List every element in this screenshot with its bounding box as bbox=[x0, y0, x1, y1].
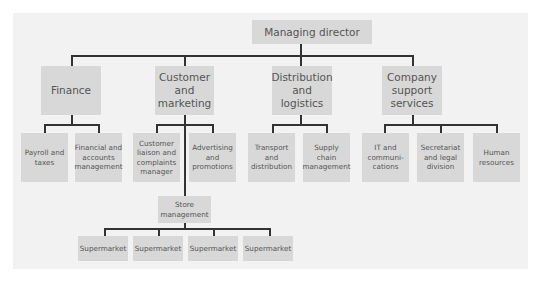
node-label: Financial and accounts management bbox=[74, 143, 122, 172]
node-managing-director: Managing director bbox=[252, 20, 372, 44]
connector bbox=[156, 124, 158, 133]
node-label: Secretariat and legal division bbox=[421, 143, 461, 172]
connector bbox=[440, 124, 442, 133]
node-label: Transport and distribution bbox=[251, 143, 292, 172]
node-customer-liaison: Customer liaison and complaints manager bbox=[133, 133, 180, 182]
connector bbox=[71, 55, 414, 57]
connector bbox=[212, 124, 214, 133]
connector bbox=[98, 124, 100, 133]
connector bbox=[326, 124, 328, 133]
connector bbox=[184, 115, 186, 196]
node-it-communications: IT and communi- cations bbox=[362, 133, 409, 182]
node-label: Human resources bbox=[479, 148, 514, 167]
connector bbox=[384, 124, 386, 133]
connector bbox=[300, 55, 302, 66]
node-supermarket: Supermarket bbox=[133, 236, 183, 261]
node-label: Supply chain management bbox=[302, 143, 350, 172]
connector bbox=[44, 124, 46, 133]
node-label: Customer liaison and complaints manager bbox=[137, 139, 176, 177]
connector bbox=[269, 228, 271, 236]
node-label: Payroll and taxes bbox=[25, 148, 65, 167]
connector bbox=[104, 228, 271, 230]
node-company-support: Company support services bbox=[382, 66, 442, 115]
connector bbox=[272, 124, 327, 126]
node-supply-chain: Supply chain management bbox=[303, 133, 350, 182]
connector bbox=[184, 55, 186, 66]
connector bbox=[104, 228, 106, 236]
node-label: Distribution and logistics bbox=[271, 71, 332, 110]
node-label: Supermarket bbox=[245, 244, 291, 254]
node-label: Store management bbox=[160, 200, 208, 219]
connector bbox=[272, 124, 274, 133]
connector bbox=[496, 124, 498, 133]
node-label: Company support services bbox=[387, 71, 437, 110]
node-transport-distribution: Transport and distribution bbox=[248, 133, 295, 182]
node-payroll-taxes: Payroll and taxes bbox=[21, 133, 68, 182]
connector bbox=[158, 228, 160, 236]
node-label: IT and communi- cations bbox=[367, 143, 403, 172]
node-financial-accounts: Financial and accounts management bbox=[75, 133, 122, 182]
node-customer-marketing: Customer and marketing bbox=[155, 66, 214, 115]
connector bbox=[71, 55, 73, 66]
node-advertising-promotions: Advertising and promotions bbox=[189, 133, 236, 182]
connector bbox=[213, 228, 215, 236]
node-distribution-logistics: Distribution and logistics bbox=[272, 66, 332, 115]
node-label: Managing director bbox=[264, 26, 360, 38]
node-label: Supermarket bbox=[190, 244, 236, 254]
connector bbox=[412, 55, 414, 66]
node-label: Supermarket bbox=[80, 244, 126, 254]
node-supermarket: Supermarket bbox=[78, 236, 128, 261]
node-supermarket: Supermarket bbox=[243, 236, 293, 261]
node-label: Finance bbox=[51, 84, 91, 97]
node-finance: Finance bbox=[41, 66, 101, 115]
node-human-resources: Human resources bbox=[473, 133, 520, 182]
node-label: Customer and marketing bbox=[158, 71, 212, 110]
connector bbox=[156, 124, 213, 126]
node-secretariat-legal: Secretariat and legal division bbox=[417, 133, 464, 182]
node-label: Supermarket bbox=[135, 244, 181, 254]
node-label: Advertising and promotions bbox=[192, 143, 233, 172]
node-supermarket: Supermarket bbox=[188, 236, 238, 261]
connector bbox=[44, 124, 99, 126]
node-store-management: Store management bbox=[158, 196, 211, 223]
